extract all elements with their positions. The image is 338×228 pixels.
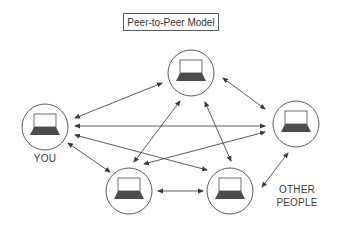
arrow-top-bottom-left [134,101,180,162]
other-people-label-line2: PEOPLE [275,196,319,209]
laptop-icon [176,60,206,81]
arrow-top-right [223,78,265,109]
diagram-title-text: Peer-to-Peer Model [127,17,214,28]
you-label: YOU [28,152,62,165]
arrow-top-bottom-right [205,102,231,161]
diagram-title: Peer-to-Peer Model [123,13,219,31]
arrow-you-top [75,83,162,118]
peer-node-you [22,104,68,150]
other-people-label-line1: OTHER [275,183,319,196]
connection-arrows [68,78,288,191]
peer-node-top [168,50,214,96]
arrow-right-bottom-right [262,153,288,187]
peer-node-bottom-right [207,168,253,214]
laptop-icon [215,178,245,199]
laptop-icon [30,114,60,135]
laptop-icon [114,178,144,199]
arrow-you-bottom-left [68,143,110,172]
peer-node-bottom-left [106,168,152,214]
arrow-right-bottom-left [144,132,265,164]
laptop-icon [281,111,311,132]
peer-node-right [273,101,319,147]
